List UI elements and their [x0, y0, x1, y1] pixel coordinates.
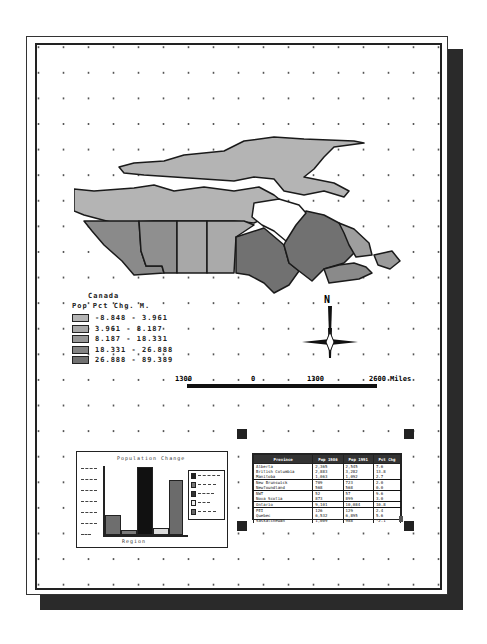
chart-title: Population Change [117, 455, 185, 461]
north-arrow[interactable]: N [300, 294, 360, 364]
legend-swatch [72, 356, 89, 364]
chart-legend-item [191, 471, 224, 480]
chart-legend-item [191, 489, 224, 498]
y-tick [81, 479, 97, 482]
chart-bar-5 [169, 480, 183, 535]
compass-rose-icon [300, 294, 360, 364]
scale-label-right: 2600 Miles [369, 375, 411, 383]
resize-grip-icon[interactable] [399, 516, 403, 522]
scale-bar-graphic [187, 384, 377, 388]
chart-legend [188, 470, 225, 520]
legend-range: 8.187 - 18.331 [95, 335, 168, 343]
table-header: Province [254, 455, 313, 464]
selection-handle-tl[interactable] [237, 429, 247, 439]
legend-range: 3.961 - 8.187 [95, 325, 163, 333]
chart-legend-item [191, 498, 224, 507]
chart-bar-1 [105, 515, 121, 535]
y-tick [81, 512, 97, 515]
chart-bar-2 [121, 530, 137, 535]
selection-handle-tr[interactable] [404, 429, 414, 439]
y-tick [81, 501, 97, 504]
legend-class-2: 3.961 - 8.187 [72, 324, 173, 335]
selection-handle-br[interactable] [404, 521, 414, 531]
chart-bar-3 [137, 467, 153, 535]
y-tick [81, 523, 97, 526]
canada-map[interactable] [74, 133, 404, 298]
legend-class-1: -8.848 - 3.961 [72, 313, 173, 324]
scale-label-mid: 1300 [307, 375, 324, 383]
table-row: Saskatchewan1,009988-2.1 [254, 518, 401, 523]
y-tick [81, 468, 97, 471]
table-frame[interactable]: Province Pop 1986 Pop 1991 Pct Chg Alber… [252, 453, 402, 520]
legend-range: -8.848 - 3.961 [95, 314, 168, 322]
scale-label-zero: 0 [251, 375, 255, 383]
chart-x-label: Region [122, 538, 146, 544]
legend-swatch [72, 346, 89, 354]
legend-swatch [72, 314, 89, 322]
chart-bar-4 [153, 528, 169, 535]
province-newfoundland [374, 251, 400, 269]
data-table: Province Pop 1986 Pop 1991 Pct Chg Alber… [253, 454, 401, 523]
y-tick [81, 534, 91, 537]
legend-class-5: 26.888 - 89.389 [72, 355, 173, 366]
y-tick [81, 490, 97, 493]
legend-subtitle: Pop Pct Chg. M. [72, 302, 173, 313]
legend-title: Canada [88, 292, 173, 302]
table-header: Pop 1986 [313, 455, 343, 464]
x-axis [103, 535, 188, 537]
chart-legend-item [191, 480, 224, 489]
legend-range: 26.888 - 89.389 [95, 356, 173, 364]
province-saskatchewan [177, 221, 207, 273]
legend-range: 18.331 - 26.888 [95, 346, 173, 354]
legend-swatch [72, 325, 89, 333]
table-header: Pct Chg [373, 455, 400, 464]
scale-label-left: 1300 [175, 375, 192, 383]
legend-swatch [72, 335, 89, 343]
table-header: Pop 1991 [343, 455, 373, 464]
chart-frame[interactable]: Population Change Region [76, 451, 228, 548]
legend-class-3: 8.187 - 18.331 [72, 334, 173, 345]
selection-handle-bl[interactable] [237, 521, 247, 531]
scale-bar[interactable]: 1300 0 1300 2600 Miles [175, 375, 415, 395]
legend-class-4: 18.331 - 26.888 [72, 345, 173, 356]
chart-legend-item [191, 507, 224, 516]
map-legend[interactable]: Canada Pop Pct Chg. M. -8.848 - 3.961 3.… [72, 292, 173, 366]
